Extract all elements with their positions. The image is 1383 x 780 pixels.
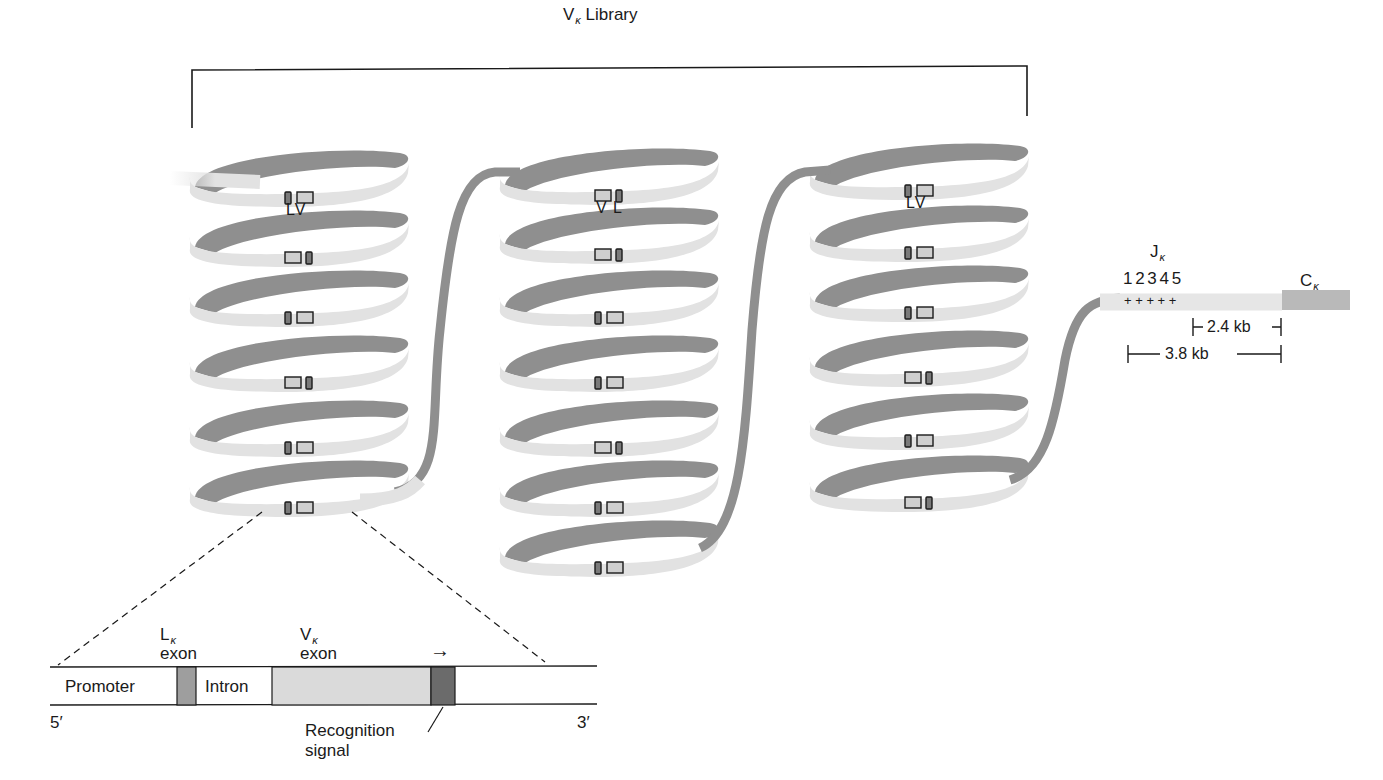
transcription-arrow: → (430, 640, 450, 660)
l-exon-marker (926, 372, 932, 384)
coil-loop (810, 265, 1029, 322)
coil-loop (500, 460, 719, 517)
coil-loop (190, 460, 409, 517)
v-exon-marker (607, 502, 623, 513)
v-exon-marker (285, 377, 301, 388)
v-exon-box (272, 667, 431, 705)
v-exon-marker (285, 252, 301, 263)
distance-short: 2.4 kb (1207, 319, 1251, 335)
coil-loop (190, 270, 409, 327)
l-exon-marker (595, 502, 601, 514)
coil-loop (810, 393, 1029, 450)
v-exon-marker (607, 312, 623, 323)
v-exon-marker (297, 502, 313, 513)
l-exon-marker (306, 377, 312, 389)
j-segment-numbers: 1 2 3 4 5 (1123, 270, 1180, 287)
c-kappa-label: Cκ (1300, 272, 1319, 289)
coil-loop (190, 335, 409, 392)
coil-loop (500, 335, 719, 392)
j-segment-plus-marks: + + + + + (1124, 294, 1176, 307)
l-exon-box (177, 667, 196, 705)
l-exon-marker (905, 247, 911, 259)
l-exon-marker (595, 312, 601, 324)
library-bracket (192, 66, 1027, 128)
coil-loop (810, 205, 1029, 262)
vk-library-diagram (0, 0, 1383, 780)
recognition-signal-box (431, 667, 455, 705)
l-exon-marker (616, 442, 622, 454)
coil-2-label: V L (596, 199, 623, 217)
coil-1-label: LV (286, 201, 306, 219)
v-exon-marker (917, 307, 933, 318)
coil-3-label: LV (906, 194, 926, 212)
l-exon-marker (616, 249, 622, 261)
coil-loop (500, 520, 719, 577)
l-exon-marker (285, 442, 291, 454)
v-exon-marker (297, 442, 313, 453)
v-exon-marker (595, 442, 611, 453)
intron-label: Intron (205, 678, 248, 695)
coil-loop (810, 455, 1029, 512)
l-exon-marker (285, 502, 291, 514)
l-exon-marker (285, 312, 291, 324)
distance-long: 3.8 kb (1165, 346, 1209, 362)
recognition-pointer (428, 707, 443, 732)
v-exon-label: Vκ (300, 626, 318, 643)
v-exon-word: exon (300, 645, 337, 662)
c-kappa-segment (1282, 290, 1350, 310)
l-exon-marker (926, 497, 932, 509)
v-exon-marker (905, 497, 921, 508)
coil-loop (810, 143, 1029, 200)
l-exon-marker (595, 562, 601, 574)
five-prime-label: 5′ (50, 714, 63, 731)
l-exon-marker (905, 435, 911, 447)
coil-loop (500, 400, 719, 457)
l-exon-label: Lκ (160, 626, 176, 643)
v-exon-marker (607, 377, 623, 388)
j-kappa-label: Jκ (1150, 243, 1165, 260)
l-exon-marker (595, 377, 601, 389)
coil-loop (500, 270, 719, 327)
recognition-signal-label-line2: signal (305, 742, 349, 759)
coil-loop (810, 330, 1029, 387)
v-exon-marker (917, 247, 933, 258)
v-exon-marker (607, 562, 623, 573)
three-prime-label: 3′ (577, 714, 590, 731)
v-exon-marker (297, 312, 313, 323)
library-title: Vκ Library (563, 5, 638, 25)
coil-loop (190, 400, 409, 457)
l-exon-marker (905, 307, 911, 319)
v-exon-marker (595, 249, 611, 260)
promoter-label: Promoter (65, 678, 135, 695)
recognition-signal-label: Recognition (305, 722, 395, 739)
v-exon-marker (917, 435, 933, 446)
l-exon-marker (306, 252, 312, 264)
v-exon-marker (905, 372, 921, 383)
coil-loop (500, 148, 719, 205)
l-exon-word: exon (160, 645, 197, 662)
